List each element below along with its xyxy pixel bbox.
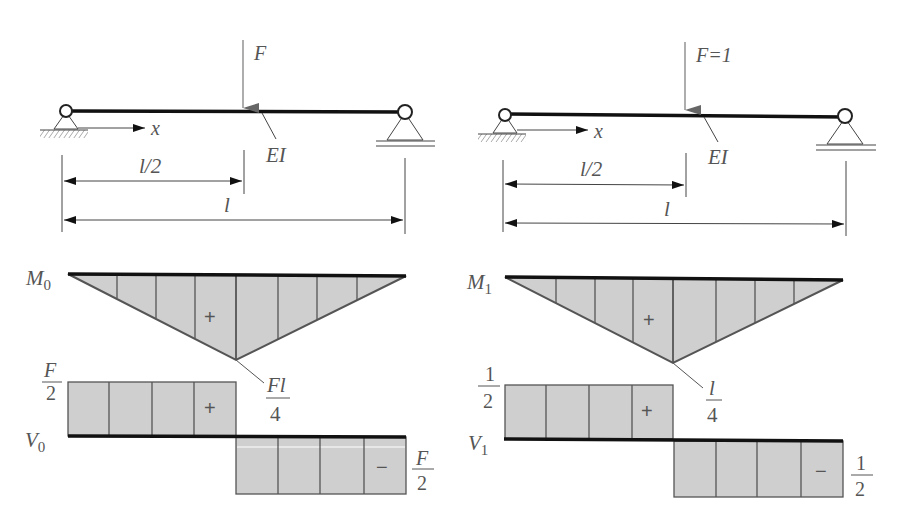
shear-negative-denominator: 2 [417, 472, 427, 494]
moment-peak-numerator: l [709, 376, 715, 400]
moment-name: M0 [25, 266, 51, 293]
load-label: F=1 [695, 44, 732, 66]
dimension-full-label: l [664, 197, 670, 221]
shear-positive-numerator: F [43, 359, 57, 381]
shear-positive-denominator: 2 [483, 390, 493, 412]
dimension-full-arrow [505, 223, 844, 224]
right-shear-diagram: + − 1 2 V1 1 2 [468, 363, 873, 500]
shear-negative-numerator: F [415, 447, 429, 469]
moment-peak-denominator: 4 [270, 402, 281, 426]
left-panel: x F EI l/2 l + [25, 40, 435, 494]
dimension-full-label: l [224, 193, 230, 217]
moment-sign: + [204, 306, 216, 328]
shear-positive-sign: + [641, 400, 653, 422]
shear-negative-numerator: 1 [856, 452, 866, 474]
x-axis-label: x [593, 120, 603, 142]
shear-negative-sign: − [815, 460, 827, 482]
dimension-half-arrow [505, 184, 684, 185]
shear-negative-denominator: 2 [855, 478, 865, 500]
x-axis-label: x [150, 117, 160, 139]
moment-peak-numerator: Fl [266, 373, 286, 397]
moment-sign: + [643, 309, 655, 331]
right-panel: x F=1 EI l/2 l + M1 l [466, 42, 876, 500]
moment-peak-denominator: 4 [707, 403, 718, 427]
shear-name: V1 [468, 431, 488, 458]
shear-negative-sign: − [376, 456, 388, 478]
left-beam: x F EI l/2 l [40, 40, 435, 234]
dimension-half-label: l/2 [139, 154, 162, 178]
beam-diagrams: x F EI l/2 l + [0, 0, 904, 523]
shear-positive-numerator: 1 [485, 363, 495, 385]
right-beam: x F=1 EI l/2 l [478, 42, 876, 236]
stiffness-label: EI [265, 143, 287, 167]
shear-positive-sign: + [204, 397, 216, 419]
stiffness-label: EI [707, 145, 729, 169]
shear-name: V0 [25, 428, 45, 455]
shear-positive-denominator: 2 [46, 382, 56, 404]
moment-name: M1 [466, 270, 492, 297]
left-shear-diagram: + − F 2 V0 F 2 [25, 359, 434, 494]
load-label: F [253, 42, 267, 64]
dimension-half-label: l/2 [580, 157, 603, 181]
